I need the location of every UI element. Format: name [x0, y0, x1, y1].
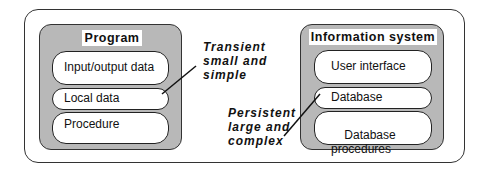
- transient-connector: [162, 66, 196, 94]
- connector-lines: [0, 0, 484, 176]
- persistent-connector: [284, 94, 320, 136]
